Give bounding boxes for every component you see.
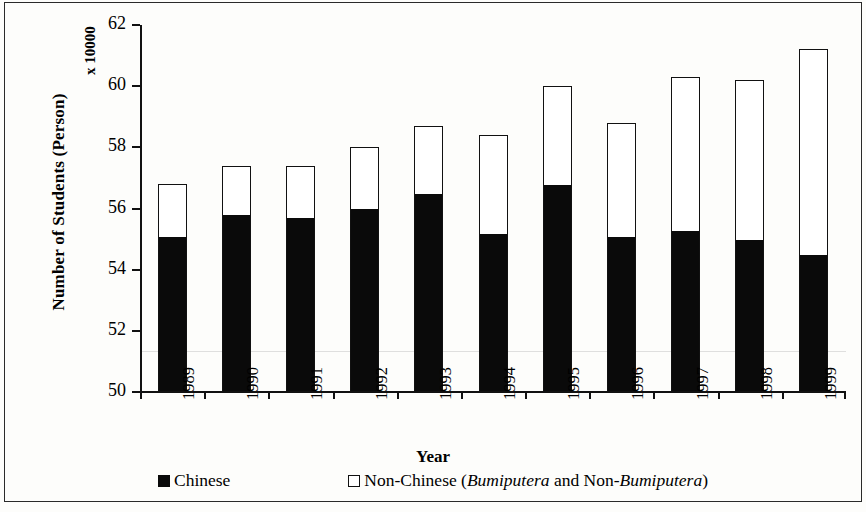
y-axis-tick-label: 50	[108, 380, 126, 401]
y-axis-tick: 58	[132, 146, 140, 148]
legend-item-chinese: Chinese	[158, 470, 230, 491]
legend-swatch-filled-square	[158, 475, 170, 487]
y-axis-tick-label: 52	[108, 319, 126, 340]
stacked-bar[interactable]	[286, 166, 315, 392]
y-axis-tick-label: 54	[108, 258, 126, 279]
y-axis-tick-label: 62	[108, 13, 126, 34]
x-axis-title: Year	[0, 447, 866, 467]
bar-group[interactable]	[414, 25, 443, 392]
x-axis-tick-label: 1998	[757, 367, 777, 400]
stacked-bar[interactable]	[222, 166, 251, 392]
stacked-bar[interactable]	[799, 49, 828, 392]
y-axis-tick-label: 56	[108, 197, 126, 218]
x-axis-tick	[525, 392, 527, 399]
x-axis-tick-label: 1992	[372, 367, 392, 400]
x-axis-tick-label: 1994	[500, 367, 520, 400]
x-axis-tick	[718, 392, 720, 399]
legend-item-non-chinese: Non-Chinese (Bumiputera and Non-Bumipute…	[348, 470, 708, 491]
x-axis-tick	[589, 392, 591, 399]
stacked-bar[interactable]	[158, 184, 187, 392]
x-axis-tick	[782, 392, 784, 399]
x-axis-tick-label: 1989	[179, 367, 199, 400]
x-axis-tick	[140, 392, 142, 399]
bar-group[interactable]	[222, 25, 251, 392]
y-axis-multiplier-label: x 10000	[82, 3, 99, 99]
stacked-bar[interactable]	[350, 147, 379, 392]
legend-swatch-open-square	[348, 475, 360, 487]
x-axis-tick-label: 1991	[307, 367, 327, 400]
stacked-bar[interactable]	[735, 80, 764, 392]
stacked-bar[interactable]	[543, 86, 572, 392]
bar-group[interactable]	[671, 25, 700, 392]
x-axis-tick-label: 1996	[628, 367, 648, 400]
y-axis-tick: 50	[132, 391, 140, 393]
bar-group[interactable]	[286, 25, 315, 392]
stacked-bar[interactable]	[479, 135, 508, 392]
bar-segment-chinese[interactable]	[351, 209, 378, 391]
stacked-bar[interactable]	[414, 126, 443, 392]
bar-group[interactable]	[158, 25, 187, 392]
bar-segment-chinese[interactable]	[223, 215, 250, 391]
x-axis-tick-label: 1990	[243, 367, 263, 400]
x-axis-tick	[268, 392, 270, 399]
bar-group[interactable]	[799, 25, 828, 392]
y-axis-title: Number of Students (Person)	[49, 37, 69, 367]
y-axis-tick: 54	[132, 269, 140, 271]
x-axis-tick-label: 1999	[821, 367, 841, 400]
x-axis-tick	[204, 392, 206, 399]
bar-group[interactable]	[479, 25, 508, 392]
x-axis-tick-label: 1997	[693, 367, 713, 400]
y-axis-tick-label: 60	[108, 74, 126, 95]
bar-segment-chinese[interactable]	[544, 185, 571, 391]
bar-group[interactable]	[543, 25, 572, 392]
stacked-bar[interactable]	[607, 123, 636, 392]
chart-figure: Number of Students (Person) x 10000 5052…	[0, 0, 866, 512]
y-axis-tick: 56	[132, 208, 140, 210]
y-axis-tick: 60	[132, 85, 140, 87]
chart-legend: Chinese Non-Chinese (Bumiputera and Non-…	[0, 470, 866, 491]
x-axis-tick-label: 1995	[564, 367, 584, 400]
x-axis-tick	[461, 392, 463, 399]
x-axis-tick	[653, 392, 655, 399]
bar-group[interactable]	[735, 25, 764, 392]
stacked-bar[interactable]	[671, 77, 700, 392]
bar-segment-chinese[interactable]	[415, 194, 442, 391]
plot-area: 50525456586062 1989199019911992199319941…	[140, 25, 846, 392]
legend-label-chinese: Chinese	[174, 470, 230, 491]
y-axis-line	[140, 25, 142, 393]
x-axis-tick	[333, 392, 335, 399]
y-axis-tick-label: 58	[108, 135, 126, 156]
x-axis-tick	[397, 392, 399, 399]
x-axis-tick	[844, 392, 846, 399]
x-axis-tick-label: 1993	[436, 367, 456, 400]
bar-group[interactable]	[607, 25, 636, 392]
legend-label-non-chinese: Non-Chinese (Bumiputera and Non-Bumipute…	[364, 470, 708, 491]
bar-group[interactable]	[350, 25, 379, 392]
y-axis-tick: 52	[132, 330, 140, 332]
bar-segment-chinese[interactable]	[287, 218, 314, 391]
y-axis-tick: 62	[132, 24, 140, 26]
